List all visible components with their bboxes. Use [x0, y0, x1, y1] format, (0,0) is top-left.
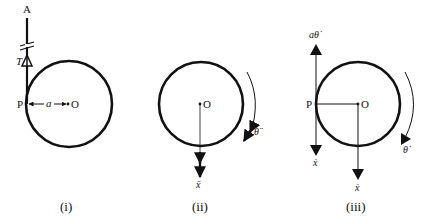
caption-i: (i) [60, 200, 72, 213]
panel-iii-graphics [310, 44, 414, 180]
down-arrow-p-icon [310, 145, 322, 156]
diagram-graphics [0, 0, 430, 224]
label-theta-ddot: θ̈ [254, 127, 259, 137]
panel-i-graphics [20, 18, 112, 147]
label-theta-dot: θ̇ [403, 145, 408, 155]
diagram: A T P a O (i) O ẍ θ̈ (ii) aθ̇ P O ẋ ẋ θ̇… [0, 0, 430, 224]
label-x-ddot: ẍ [196, 180, 200, 190]
center-dot-i [67, 103, 70, 106]
label-p-i: P [17, 99, 23, 110]
label-x-dot-o: ẋ [355, 183, 359, 193]
caption-ii: (ii) [192, 200, 208, 213]
down-arrow-o-icon [352, 169, 364, 180]
angular-accel-arrow-2 [244, 131, 250, 141]
label-a-point: A [23, 4, 31, 15]
label-p-iii: P [306, 99, 312, 110]
caption-iii: (iii) [346, 200, 366, 213]
label-o-iii: O [361, 99, 369, 110]
panel-ii-graphics [159, 62, 255, 177]
label-tension: T [16, 56, 22, 67]
label-o-i: O [71, 99, 79, 110]
label-a-theta-dot: aθ̇ [309, 30, 319, 40]
label-x-dot-p: ẋ [313, 158, 317, 168]
label-radius: a [46, 98, 52, 109]
up-arrow-icon [310, 44, 322, 55]
label-o-ii: O [203, 99, 211, 110]
angular-vel-arc [405, 72, 414, 138]
